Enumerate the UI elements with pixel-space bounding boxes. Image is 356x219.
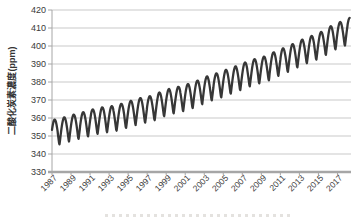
- cropped-caption-remnant: [105, 214, 291, 217]
- x-tick-label: 2007: [229, 173, 250, 194]
- y-tick-label: 420: [31, 5, 46, 15]
- x-tick-label: 2001: [172, 173, 193, 194]
- y-tick-label: 390: [31, 59, 46, 69]
- co2-concentration-chart-figure: 二酸化炭素濃度(ppm) 420410400390380370360350340…: [0, 0, 356, 219]
- x-tick-label: 1995: [115, 173, 136, 194]
- x-tick-label: 2013: [286, 173, 307, 194]
- y-tick-label: 330: [31, 167, 46, 177]
- x-tick-label: 2005: [210, 173, 231, 194]
- x-tick-label: 1999: [153, 173, 174, 194]
- x-tick-label: 2003: [191, 173, 212, 194]
- y-tick-label: 410: [31, 23, 46, 33]
- co2-chart-plot: 4204104003903803703603503403301987198919…: [0, 0, 356, 219]
- y-tick-label: 340: [31, 149, 46, 159]
- y-tick-label: 380: [31, 77, 46, 87]
- x-tick-label: 2009: [248, 173, 269, 194]
- x-tick-label: 1993: [96, 173, 117, 194]
- x-tick-label: 1991: [77, 173, 98, 194]
- x-tick-label: 2015: [305, 173, 326, 194]
- x-tick-label: 2011: [267, 173, 287, 193]
- x-tick-label: 2017: [324, 173, 345, 194]
- y-tick-label: 400: [31, 41, 46, 51]
- y-tick-label: 360: [31, 113, 46, 123]
- y-tick-label: 350: [31, 131, 46, 141]
- x-tick-label: 1997: [134, 173, 155, 194]
- y-tick-label: 370: [31, 95, 46, 105]
- co2-series-line: [52, 18, 350, 144]
- x-tick-label: 1989: [57, 173, 78, 194]
